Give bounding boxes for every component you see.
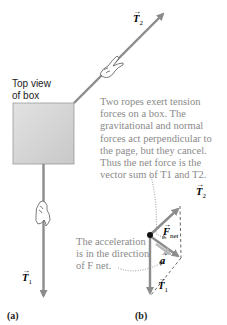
note-bottom-line-1: The acceleration <box>76 236 149 248</box>
note-top-line-6: Thus the net force is the <box>100 157 212 169</box>
box <box>13 103 74 164</box>
note-top-line-3: gravitational and normal <box>100 120 212 132</box>
label-fnet: →Fnet <box>163 226 179 240</box>
note-top: Two ropes exert tension forces on a box.… <box>100 96 212 181</box>
hand-t1-icon <box>36 201 50 226</box>
note-top-line-4: forces act perpendicular to <box>100 133 212 145</box>
note-bottom: The acceleration is in the direction of … <box>76 236 149 273</box>
panel-label-a: (a) <box>7 310 19 321</box>
label-t2-b: →T2 <box>196 186 206 200</box>
box-label-line-2: of box <box>12 90 51 102</box>
label-t1-a: →T1 <box>22 272 32 286</box>
note-bottom-line-2: is in the direction <box>76 248 149 260</box>
box-label: Top view of box <box>12 78 51 102</box>
note-top-line-5: the page, but they cancel. <box>100 145 212 157</box>
hand-t2-icon <box>100 56 123 78</box>
label-t1-b: →T1 <box>158 280 168 294</box>
note-top-line-7: vector sum of T1 and T2. <box>100 169 212 181</box>
label-acceleration: →a <box>160 255 165 266</box>
note-top-line-2: forces on a box. The <box>100 108 212 120</box>
panel-label-b: (b) <box>135 310 147 321</box>
label-t2-a: →T2 <box>133 13 143 27</box>
dashed-line-vertical <box>180 206 181 258</box>
note-top-line-1: Two ropes exert tension <box>100 96 212 108</box>
note-bottom-line-3: of F net. <box>76 260 149 272</box>
box-label-line-1: Top view <box>12 78 51 90</box>
